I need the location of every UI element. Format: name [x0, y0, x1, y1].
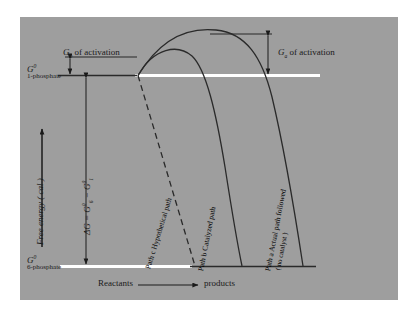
y-axis-label: Free energy ( cal ) [36, 178, 45, 245]
x-axis-label-left: Reactants [98, 279, 133, 288]
path-c-curve [138, 76, 195, 267]
gb-activation-label: Gb of activation [63, 48, 120, 57]
lower-level-subscript: 6-phosphate [27, 264, 61, 271]
diagram-panel: G0 1-phosphate G0 6-phosphate Gb of acti… [20, 17, 398, 300]
delta-g-label: ΔG = G06 − G01 [83, 178, 92, 235]
upper-level-label: G0 1-phosphate [27, 65, 61, 81]
ga-symbol: Ga [278, 47, 287, 57]
figure-canvas: G0 1-phosphate G0 6-phosphate Gb of acti… [0, 0, 419, 319]
delta-g-text: ΔG = G06 − G01 [82, 178, 92, 235]
gb-symbol: Gb [63, 47, 72, 57]
gb-rest-text: of activation [72, 47, 119, 57]
diagram-vector-layer [20, 17, 398, 300]
ga-rest-text: of activation [287, 47, 334, 57]
ga-activation-label: Ga of activation [278, 48, 335, 57]
x-axis-label-right: products [204, 279, 235, 288]
upper-level-subscript: 1-phosphate [27, 73, 61, 80]
lower-level-label: G0 6-phosphate [27, 256, 61, 272]
